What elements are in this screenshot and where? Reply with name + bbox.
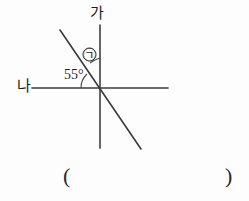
figure-canvas: [0, 0, 249, 201]
angle-value-label: 55°: [64, 68, 84, 82]
geometry-figure: 가 나 55° ㉠ ( ): [0, 0, 249, 201]
answer-open-paren: (: [63, 163, 70, 189]
answer-close-paren: ): [225, 163, 232, 189]
line-label-ga: 가: [90, 6, 104, 21]
unknown-angle-marker-label: ㉠: [83, 48, 96, 61]
line-label-na: 나: [17, 79, 31, 94]
